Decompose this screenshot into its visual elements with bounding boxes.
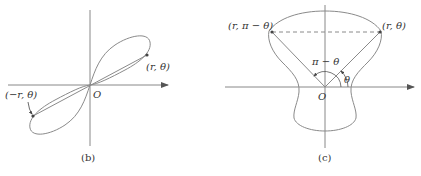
polar-symmetry-figure: (r, θ) (−r, θ) O (b) (r, π − θ) (r, θ) π… <box>0 0 421 176</box>
pointer-arrow <box>28 102 32 114</box>
angle-theta-label: θ <box>344 74 350 85</box>
angle-pi-minus-theta-label: π − θ <box>311 56 339 67</box>
caption-b: (b) <box>81 152 95 163</box>
panel-c: (r, π − θ) (r, θ) π − θ θ O (c) <box>225 5 414 163</box>
origin-label: O <box>93 89 101 100</box>
panel-b: (r, θ) (−r, θ) O (b) <box>5 10 170 163</box>
point-r-pi-minus-theta-label: (r, π − θ) <box>228 20 273 31</box>
point-r-theta <box>145 53 148 56</box>
point-neg-r-theta <box>31 114 34 117</box>
point-r-theta-label: (r, θ) <box>382 20 406 31</box>
point-neg-r-theta-label: (−r, θ) <box>5 89 37 100</box>
origin-label: O <box>318 91 326 102</box>
curve-lower-loop <box>30 85 90 134</box>
point-r-theta-label: (r, θ) <box>146 61 170 72</box>
curve-upper-loop <box>90 36 150 85</box>
caption-c: (c) <box>318 152 332 163</box>
